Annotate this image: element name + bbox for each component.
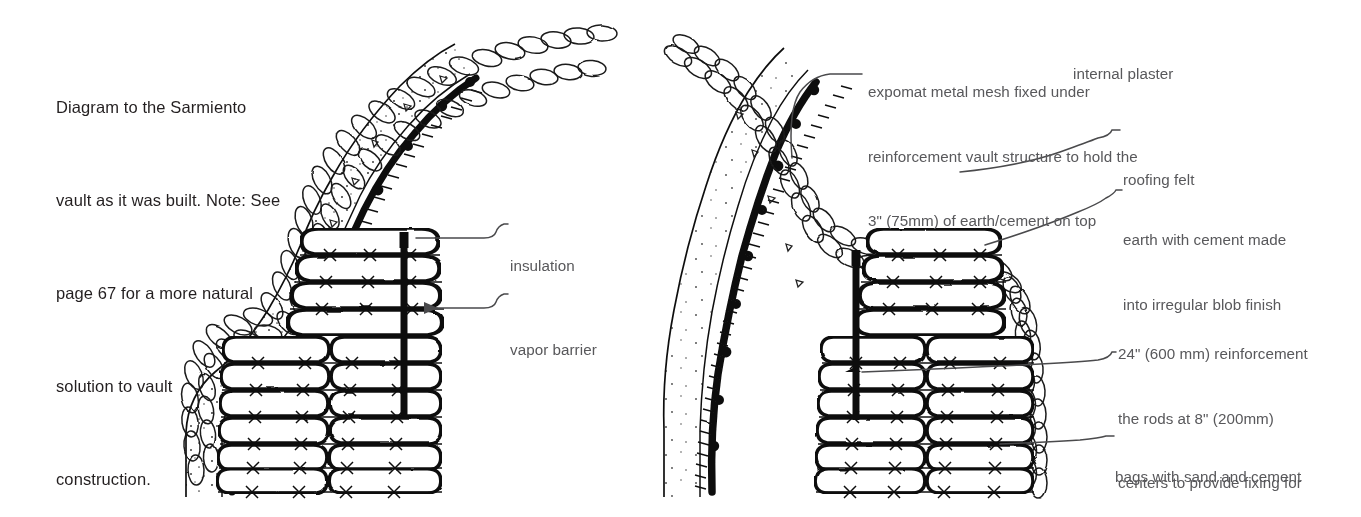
caption-line: page 67 for a more natural: [56, 278, 356, 309]
annotation-line: bags with sand and cement: [1115, 466, 1301, 488]
annotation-line: earth with cement made: [1123, 229, 1286, 251]
caption-line: Diagram to the Sarmiento: [56, 92, 356, 123]
annotation-line: insulation: [510, 255, 575, 277]
annotation-line: vapor barrier: [510, 339, 597, 361]
annotation-expomat: expomat metal mesh fixed under reinforce…: [868, 38, 1138, 275]
caption-line: solution to vault: [56, 371, 356, 402]
annotation-line: expomat metal mesh fixed under: [868, 81, 1138, 103]
annotation-line: 3" (75mm) of earth/cement on top: [868, 210, 1138, 232]
leader-expomat: [791, 74, 862, 158]
page-caption: Diagram to the Sarmiento vault as it was…: [56, 30, 356, 517]
annotation-bags: bags with sand and cement and barbed wir…: [1115, 423, 1301, 517]
annotation-line: reinforcement vault structure to hold th…: [868, 146, 1138, 168]
diagram-canvas: Diagram to the Sarmiento vault as it was…: [0, 0, 1361, 517]
caption-line: vault as it was built. Note: See: [56, 185, 356, 216]
caption-line: construction.: [56, 464, 356, 495]
annotation-vapor-barrier: vapor barrier: [510, 296, 597, 404]
annotation-line: 24" (600 mm) reinforcement: [1118, 343, 1308, 365]
